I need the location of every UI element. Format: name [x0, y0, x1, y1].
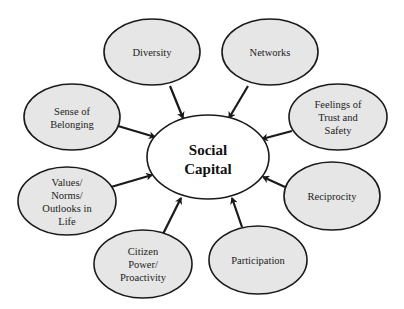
social-capital-diagram: DiversityNetworksFeelings ofTrust andSaf… — [0, 0, 404, 309]
arrow-citizen-power-proactivity-to-center — [163, 198, 181, 234]
node-label-feelings-of-trust-and-safety-line-3: Safety — [325, 125, 353, 136]
node-label-citizen-power-proactivity-line-3: Proactivity — [120, 272, 167, 283]
node-label-feelings-of-trust-and-safety-line-1: Feelings of — [315, 99, 362, 110]
node-feelings-of-trust-and-safety: Feelings ofTrust andSafety — [289, 84, 387, 150]
node-networks: Networks — [222, 19, 318, 85]
node-label-citizen-power-proactivity-line-2: Power/ — [128, 259, 158, 270]
node-label-citizen-power-proactivity-line-1: Citizen — [128, 246, 159, 257]
node-label-values-norms-outlooks-line-3: Outlooks in — [42, 203, 92, 214]
node-label-sense-of-belonging-line-2: Belonging — [50, 119, 94, 130]
node-label-sense-of-belonging-line-1: Sense of — [54, 106, 90, 117]
node-label-values-norms-outlooks-line-2: Norms/ — [51, 190, 83, 201]
node-label-values-norms-outlooks-line-1: Values/ — [52, 177, 83, 188]
arrow-networks-to-center — [229, 86, 248, 118]
node-reciprocity: Reciprocity — [284, 162, 380, 230]
node-label-diversity-line-1: Diversity — [132, 47, 172, 58]
node-sense-of-belonging: Sense ofBelonging — [24, 84, 120, 150]
arrow-feelings-of-trust-and-safety-to-center — [262, 131, 292, 139]
center-label-line-1: Social — [189, 142, 227, 158]
arrow-values-norms-outlooks-to-center — [111, 175, 152, 187]
node-citizen-power-proactivity: CitizenPower/Proactivity — [94, 230, 192, 298]
node-values-norms-outlooks: Values/Norms/Outlooks inLife — [18, 167, 116, 235]
center-node: Social Capital — [147, 115, 269, 199]
node-label-reciprocity-line-1: Reciprocity — [308, 191, 358, 202]
arrow-diversity-to-center — [170, 86, 183, 118]
arrow-participation-to-center — [232, 198, 242, 227]
arrow-reciprocity-to-center — [263, 177, 285, 187]
node-label-participation-line-1: Participation — [231, 255, 285, 266]
node-diversity: Diversity — [104, 19, 200, 85]
node-participation: Participation — [209, 226, 307, 294]
node-label-networks-line-1: Networks — [250, 47, 291, 58]
center-label-line-2: Capital — [184, 161, 232, 177]
node-label-values-norms-outlooks-line-4: Life — [58, 216, 76, 227]
arrow-sense-of-belonging-to-center — [118, 126, 155, 137]
node-ellipse-sense-of-belonging — [24, 84, 120, 150]
node-label-feelings-of-trust-and-safety-line-2: Trust and — [318, 112, 358, 123]
